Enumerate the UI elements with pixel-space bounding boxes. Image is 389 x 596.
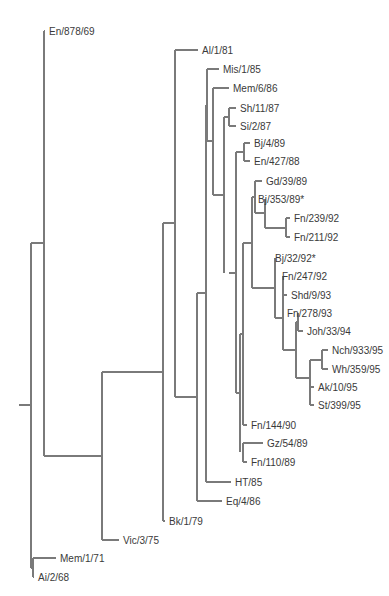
leaf-labels: En/878/69Al/1/81Mis/1/85Mem/6/86Sh/11/87… <box>38 26 384 583</box>
leaf-label: Si/2/87 <box>240 121 272 132</box>
leaf-label: En/427/88 <box>254 156 300 167</box>
leaf-label: En/878/69 <box>49 26 95 37</box>
leaf-label: Mem/1/71 <box>60 553 105 564</box>
leaf-label: Fn/278/93 <box>287 308 332 319</box>
leaf-label: Fn/239/92 <box>294 213 339 224</box>
leaf-label: Ai/2/68 <box>38 572 70 583</box>
leaf-label: Vic/3/75 <box>123 535 159 546</box>
leaf-label: Shd/9/93 <box>291 290 331 301</box>
leaf-label: Mis/1/85 <box>223 64 261 75</box>
leaf-label: Fn/211/92 <box>294 232 339 243</box>
leaf-label: Gd/39/89 <box>266 176 308 187</box>
leaf-label: Sh/11/87 <box>240 103 280 114</box>
tree-branches <box>19 31 328 577</box>
leaf-label: Joh/33/94 <box>307 326 351 337</box>
leaf-label: Ak/10/95 <box>318 382 358 393</box>
leaf-label: Eq/4/86 <box>226 496 261 507</box>
leaf-label: Wh/359/95 <box>332 364 381 375</box>
leaf-label: Al/1/81 <box>202 45 234 56</box>
leaf-label: St/399/95 <box>318 400 361 411</box>
leaf-label: Fn/110/89 <box>251 457 296 468</box>
phylogenetic-tree: En/878/69Al/1/81Mis/1/85Mem/6/86Sh/11/87… <box>0 0 389 596</box>
leaf-label: Bj/32/92* <box>275 253 316 264</box>
leaf-label: Bj/353/89* <box>258 194 304 205</box>
leaf-label: Fn/247/92 <box>282 271 327 282</box>
leaf-label: Gz/54/89 <box>267 438 308 449</box>
leaf-label: Bk/1/79 <box>169 516 203 527</box>
leaf-label: Nch/933/95 <box>332 345 384 356</box>
leaf-label: HT/85 <box>235 477 263 488</box>
leaf-label: Bj/4/89 <box>254 138 286 149</box>
leaf-label: Mem/6/86 <box>233 83 278 94</box>
leaf-label: Fn/144/90 <box>251 420 296 431</box>
